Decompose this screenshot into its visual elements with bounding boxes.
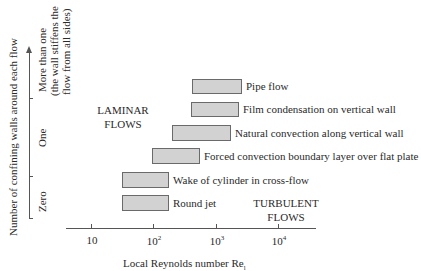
bar-pipe-flow (192, 79, 242, 94)
y-group-more-line3: flow from all sides) (60, 9, 72, 95)
y-axis-arrow-icon (26, 46, 32, 53)
turbulent-flows-label: TURBULENTFLOWS (246, 196, 326, 224)
x-axis-label: Local Reynolds number Rel (123, 257, 246, 271)
y-axis-tick-bottom (29, 218, 33, 219)
bar-forced-convection (152, 148, 200, 164)
x-tick-100 (153, 224, 154, 229)
laminar-flows-label: LAMINARFLOWS (88, 103, 158, 131)
bar-round-jet (122, 195, 169, 211)
x-tick-label-10: 10 (87, 234, 98, 246)
x-tick-label-1000: 103 (210, 234, 225, 247)
y-axis-tick-top (29, 98, 33, 99)
y-group-more-line2: (the wall stiffens the (48, 6, 60, 96)
bar-natural-convection (172, 125, 231, 141)
x-tick-10000 (278, 224, 279, 229)
x-tick-label-100: 102 (147, 234, 162, 247)
y-axis-tick-mid (29, 176, 33, 177)
x-tick-10 (91, 224, 92, 229)
x-tick-1000 (216, 224, 217, 229)
bar-film-condensation (191, 102, 239, 117)
bar-label-round-jet: Round jet (173, 197, 216, 209)
y-group-zero: Zero (36, 191, 48, 212)
y-group-more-line1: More than one (36, 28, 48, 92)
bar-cylinder-wake (122, 172, 169, 188)
bar-label-natural-convection: Natural convection along vertical wall (235, 127, 404, 139)
x-tick-label-10000: 104 (272, 234, 287, 247)
bar-label-film-condensation: Film condensation on vertical wall (243, 103, 396, 115)
y-axis-label: Number of confining walls around each fl… (7, 38, 19, 236)
y-group-one: One (36, 129, 48, 147)
bar-label-cylinder-wake: Wake of cylinder in cross-flow (173, 174, 309, 186)
bar-label-pipe-flow: Pipe flow (246, 80, 288, 92)
y-axis-line (29, 50, 30, 219)
bar-label-forced-convection: Forced convection boundary layer over fl… (204, 150, 418, 162)
